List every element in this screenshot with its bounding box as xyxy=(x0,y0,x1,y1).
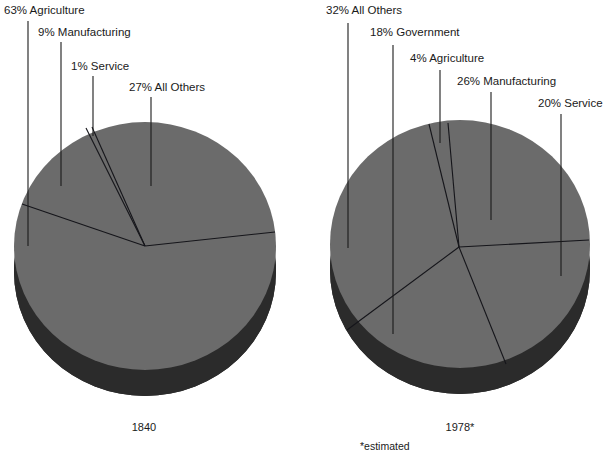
right-label-agriculture: 4% Agriculture xyxy=(410,52,484,64)
left-label-agriculture: 63% Agriculture xyxy=(4,4,85,16)
right-chart-caption: 1978* xyxy=(446,421,475,433)
left-label-manufacturing: 9% Manufacturing xyxy=(38,26,131,38)
right-label-service: 20% Service xyxy=(538,97,603,109)
left-pie-chart: 63% Agriculture 9% Manufacturing 1% Serv… xyxy=(4,4,276,433)
right-pie-chart: 32% All Others 18% Government 4% Agricul… xyxy=(326,4,603,433)
pie-chart-figure: 63% Agriculture 9% Manufacturing 1% Serv… xyxy=(0,0,616,462)
right-label-manufacturing: 26% Manufacturing xyxy=(457,75,556,87)
left-label-service: 1% Service xyxy=(71,60,129,72)
footnote-estimated: *estimated xyxy=(360,440,410,452)
right-pie-top-face xyxy=(330,120,590,368)
left-chart-caption: 1840 xyxy=(132,421,156,433)
left-label-all-others: 27% All Others xyxy=(129,81,205,93)
right-label-government: 18% Government xyxy=(370,26,460,38)
right-label-all-others: 32% All Others xyxy=(326,4,402,16)
